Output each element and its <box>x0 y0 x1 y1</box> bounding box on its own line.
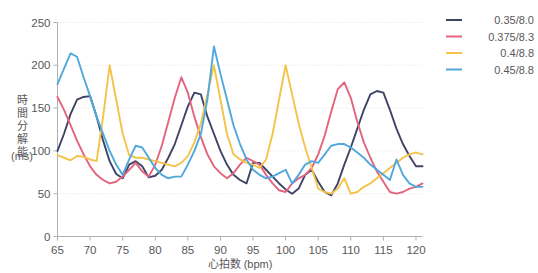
y-axis-label-unit: (ms) <box>11 150 33 162</box>
x-tick-label: 80 <box>149 244 162 256</box>
y-tick-labels: 050100150200250 <box>31 17 50 243</box>
line-chart: 050100150200250 657075808590951001051101… <box>0 0 538 273</box>
y-tick-label: 200 <box>31 59 50 71</box>
axes <box>54 23 423 241</box>
chart-canvas: 050100150200250 657075808590951001051101… <box>0 0 538 273</box>
y-axis-label: 時間分解能 <box>17 94 28 158</box>
x-tick-labels: 65707580859095100105110115120 <box>51 244 425 256</box>
series-line-2 <box>58 65 423 193</box>
x-axis-label: 心拍数 (bpm) <box>208 257 273 270</box>
x-tick-label: 75 <box>116 244 129 256</box>
x-tick-label: 100 <box>276 244 295 256</box>
x-tick-label: 65 <box>51 244 64 256</box>
x-tick-label: 120 <box>406 244 425 256</box>
y-tick-label: 100 <box>31 145 50 157</box>
x-tick-label: 85 <box>181 244 194 256</box>
y-tick-label: 0 <box>44 231 50 243</box>
series-lines <box>58 46 423 195</box>
y-tick-label: 250 <box>31 17 50 29</box>
legend-label-0: 0.35/8.0 <box>494 14 534 26</box>
legend-label-1: 0.375/8.3 <box>488 31 534 43</box>
x-tick-label: 105 <box>309 244 328 256</box>
x-tick-label: 95 <box>247 244 260 256</box>
x-tick-label: 70 <box>84 244 97 256</box>
x-tick-label: 110 <box>342 244 360 256</box>
legend: 0.35/8.00.375/8.30.4/8.80.45/8.8 <box>446 14 534 76</box>
y-tick-label: 150 <box>31 102 50 114</box>
y-tick-label: 50 <box>38 188 51 200</box>
legend-label-2: 0.4/8.8 <box>500 47 534 59</box>
x-tick-label: 115 <box>374 244 392 256</box>
legend-label-3: 0.45/8.8 <box>494 64 534 76</box>
x-tick-label: 90 <box>214 244 227 256</box>
series-line-1 <box>58 77 423 193</box>
